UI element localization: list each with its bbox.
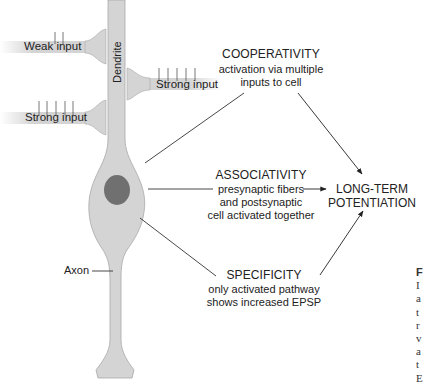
caption-line-5: v xyxy=(416,332,423,345)
axon-label: Axon xyxy=(64,264,89,276)
arrow-cooperativity-to-ltp xyxy=(298,93,362,174)
associativity-block: ASSOCIATIVITY presynaptic fibers and pos… xyxy=(206,168,316,222)
dendrite-label: Dendrite xyxy=(111,41,123,83)
cooperativity-block: COOPERATIVITY activation via multiple in… xyxy=(218,47,324,89)
associativity-heading: ASSOCIATIVITY xyxy=(206,168,316,182)
specificity-desc-line1: only activated pathway xyxy=(204,283,324,296)
connector-cooperativity xyxy=(145,93,244,163)
arrow-specificity-to-ltp xyxy=(320,211,363,275)
associativity-desc-line3: cell activated together xyxy=(206,209,316,222)
caption-line-7: t xyxy=(416,358,423,371)
caption-line-8: E xyxy=(416,372,423,385)
associativity-desc-line2: and postsynaptic xyxy=(206,196,316,209)
specificity-heading: SPECIFICITY xyxy=(204,268,324,282)
ltp-line2: POTENTIATION xyxy=(328,196,416,210)
caption-line-1: I xyxy=(416,279,423,292)
cooperativity-desc-line2: inputs to cell xyxy=(218,76,324,89)
ltp-block: LONG-TERM POTENTIATION xyxy=(328,182,416,210)
caption-line-6: a xyxy=(416,345,423,358)
associativity-desc-line1: presynaptic fibers xyxy=(206,183,316,196)
caption-line-2: a xyxy=(416,292,423,305)
figure-caption-fragment: F I a t r v a t E xyxy=(416,266,423,385)
strong-input-left-label: Strong input xyxy=(25,111,87,123)
strong-input-right-label: Strong input xyxy=(156,78,218,90)
specificity-block: SPECIFICITY only activated pathway shows… xyxy=(204,268,324,309)
caption-line-3: t xyxy=(416,306,423,319)
weak-input-label: Weak input xyxy=(24,40,81,52)
caption-line-4: r xyxy=(416,319,423,332)
ltp-line1: LONG-TERM xyxy=(328,182,416,196)
specificity-desc-line2: shows increased EPSP xyxy=(204,296,324,309)
cooperativity-heading: COOPERATIVITY xyxy=(218,47,324,61)
nucleus xyxy=(104,175,130,205)
cooperativity-desc-line1: activation via multiple xyxy=(218,63,324,76)
caption-line-0: F xyxy=(416,266,423,278)
